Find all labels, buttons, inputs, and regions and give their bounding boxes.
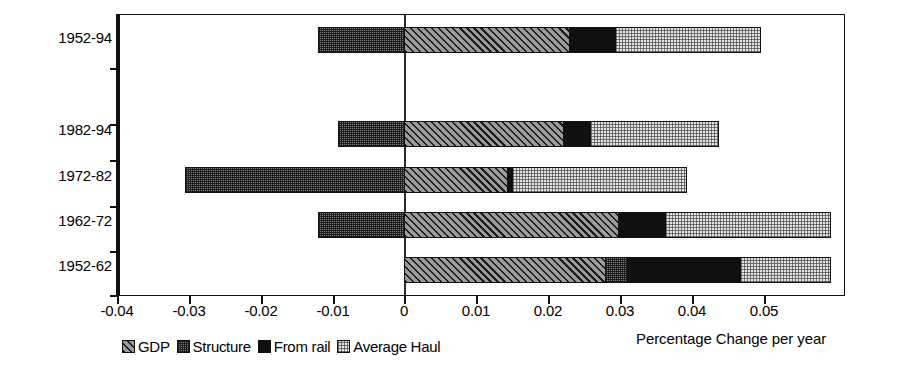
legend-label: Average Haul <box>353 339 440 354</box>
bar-segment-average-haul <box>740 257 831 283</box>
x-axis-title: Percentage Change per year <box>636 330 826 347</box>
x-axis-tick-label: -0.01 <box>298 303 368 318</box>
x-axis-tick-label: 0.05 <box>729 303 799 318</box>
bar-segment-structure <box>318 27 405 53</box>
y-axis-tick <box>110 251 118 253</box>
x-axis-tick-label: 0.03 <box>585 303 655 318</box>
bar-segment-from-rail <box>627 257 741 283</box>
chart-canvas: 1952-94 1982-94 1972-82 1962-72 1952-62 <box>0 0 922 387</box>
light-dotted-swatch-icon <box>337 340 350 353</box>
x-axis-tick-label: -0.03 <box>154 303 224 318</box>
bar-segment-from-rail <box>569 27 616 53</box>
legend-item-gdp[interactable]: GDP <box>122 339 170 354</box>
bar-segment-gdp <box>404 27 570 53</box>
legend-item-from-rail[interactable]: From rail <box>258 339 330 354</box>
bar-segment-average-haul <box>590 121 719 147</box>
y-axis-tick <box>110 206 118 208</box>
y-axis-tick-label: 1952-94 <box>58 30 112 45</box>
bar-segment-gdp <box>404 167 508 193</box>
bar-segment-gdp <box>404 212 619 238</box>
bar-segment-average-haul <box>615 27 761 53</box>
plot-area <box>118 14 845 296</box>
bar-segment-average-haul <box>512 167 687 193</box>
bar-segment-from-rail <box>563 121 591 147</box>
bar-segment-from-rail <box>618 212 666 238</box>
solid-black-swatch-icon <box>258 340 271 353</box>
bar-segment-gdp <box>404 257 606 283</box>
chart-legend: GDP Structure From rail Average Haul <box>122 339 440 354</box>
bar-segment-structure <box>338 121 405 147</box>
x-axis-tick-label: 0 <box>369 303 439 318</box>
bar-segment-average-haul <box>665 212 831 238</box>
legend-label: Structure <box>193 339 251 354</box>
y-axis-tick-label: 1952-62 <box>58 258 112 273</box>
legend-label: GDP <box>138 339 170 354</box>
bar-segment-structure <box>318 212 405 238</box>
dark-dotted-swatch-icon <box>177 340 190 353</box>
x-axis-tick-label: 0.04 <box>657 303 727 318</box>
bar-segment-structure <box>185 167 405 193</box>
x-axis-tick-label: -0.02 <box>226 303 296 318</box>
bar-segment-structure <box>605 257 628 283</box>
x-axis-tick-label: -0.04 <box>82 303 152 318</box>
legend-item-structure[interactable]: Structure <box>177 339 251 354</box>
zero-baseline <box>404 14 406 296</box>
y-axis-tick <box>110 68 118 70</box>
y-axis-tick-label: 1972-82 <box>58 168 112 183</box>
y-axis-tick <box>110 160 118 162</box>
legend-label: From rail <box>274 339 330 354</box>
y-axis-tick <box>110 124 118 126</box>
legend-item-average-haul[interactable]: Average Haul <box>337 339 440 354</box>
bar-segment-gdp <box>404 121 564 147</box>
diagonal-hatch-swatch-icon <box>122 340 135 353</box>
y-axis-tick-label: 1982-94 <box>58 122 112 137</box>
x-axis-tick-label: 0.02 <box>513 303 583 318</box>
x-axis-tick-label: 0.01 <box>441 303 511 318</box>
y-axis-tick-label: 1962-72 <box>58 213 112 228</box>
